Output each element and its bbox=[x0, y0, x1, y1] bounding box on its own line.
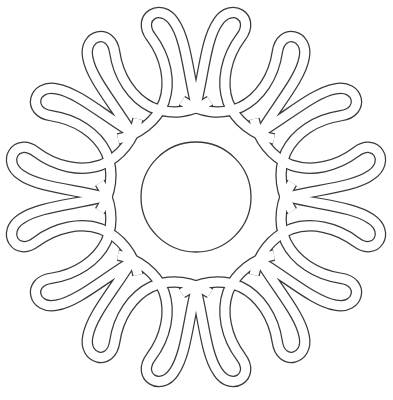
center-circle bbox=[141, 142, 251, 252]
mandala-drawing bbox=[0, 0, 393, 400]
